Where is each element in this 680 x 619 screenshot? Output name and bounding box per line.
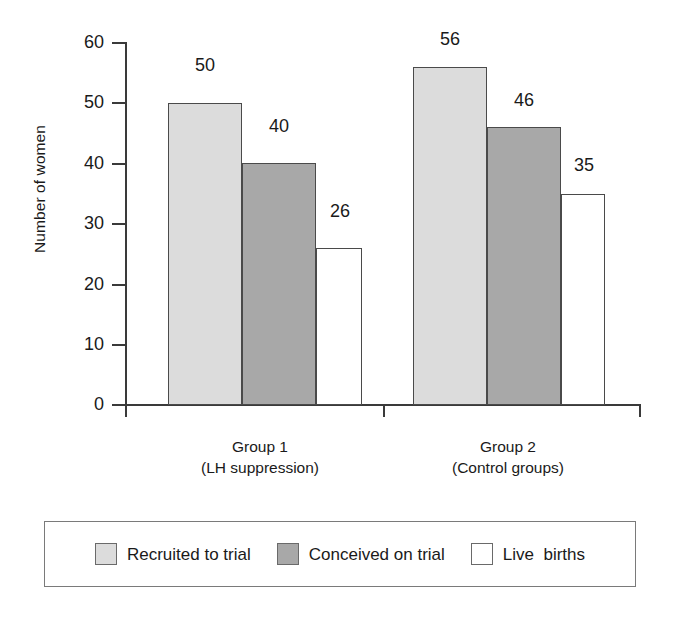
legend-item-conceived[interactable]: Conceived on trial (277, 543, 445, 565)
legend-swatch-conceived-icon (277, 543, 299, 565)
bar-value-group2-conceived: 46 (487, 91, 561, 109)
group-label-2: Group 2 (Control groups) (418, 437, 598, 479)
plot-region: Number of women 60 50 40 30 20 10 0 (0, 0, 680, 500)
group-label-2-sublabel: (Control groups) (418, 458, 598, 479)
bar-group2-conceived[interactable] (487, 127, 561, 405)
bar-group2-recruited[interactable] (413, 67, 487, 405)
legend-swatch-births-icon (471, 543, 493, 565)
bar-chart-figure: Number of women 60 50 40 30 20 10 0 (0, 0, 680, 619)
legend-item-recruited[interactable]: Recruited to trial (95, 543, 251, 565)
bar-value-group1-births: 26 (310, 202, 370, 220)
legend-swatch-recruited-icon (95, 543, 117, 565)
bar-group1-births[interactable] (316, 248, 362, 405)
bar-value-group2-recruited: 56 (413, 30, 487, 48)
legend-label-conceived: Conceived on trial (309, 546, 445, 563)
category-tick-left (125, 404, 127, 417)
category-tick-middle (383, 404, 385, 417)
group-label-1-name: Group 1 (170, 437, 350, 458)
legend-label-births: Live births (503, 546, 585, 563)
legend-label-recruited: Recruited to trial (127, 546, 251, 563)
group-label-2-name: Group 2 (418, 437, 598, 458)
bar-value-group1-conceived: 40 (242, 117, 316, 135)
group-label-1: Group 1 (LH suppression) (170, 437, 350, 479)
legend-row: Recruited to trial Conceived on trial Li… (45, 522, 635, 586)
bar-group1-conceived[interactable] (242, 163, 316, 405)
category-tick-right (639, 404, 641, 417)
bar-value-group1-recruited: 50 (168, 56, 242, 74)
legend-item-births[interactable]: Live births (471, 543, 585, 565)
group-label-1-sublabel: (LH suppression) (170, 458, 350, 479)
bar-group2-births[interactable] (561, 194, 605, 405)
bar-group1-recruited[interactable] (168, 103, 242, 405)
chart-legend: Recruited to trial Conceived on trial Li… (44, 521, 636, 587)
bar-value-group2-births: 35 (555, 156, 613, 174)
